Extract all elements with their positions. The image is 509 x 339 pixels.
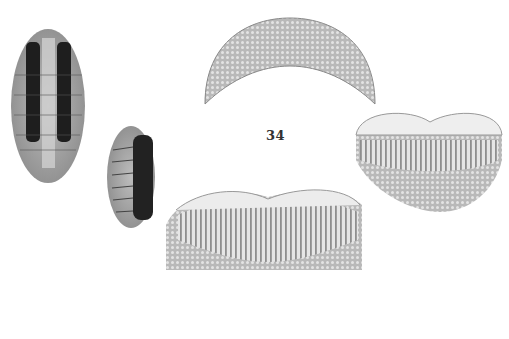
intermediate-valve-right xyxy=(356,113,502,212)
intermediate-valve-large xyxy=(166,190,362,270)
plate-illustration xyxy=(0,0,509,339)
chiton-dorsal-small xyxy=(107,126,155,228)
chiton-dorsal-large xyxy=(11,29,85,183)
figure-number: 34 xyxy=(266,128,285,143)
anterior-valve xyxy=(205,18,375,104)
